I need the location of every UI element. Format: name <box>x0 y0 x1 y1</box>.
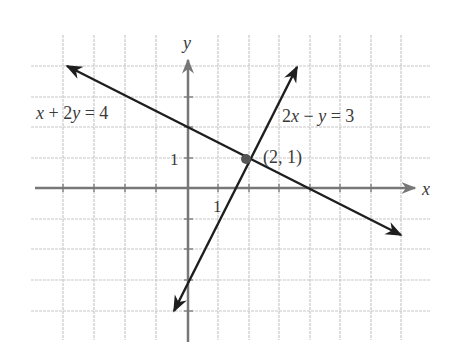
graph-canvas: y x 1 1 x + 2y = 4 2x − y = 3 (2, 1) <box>0 0 456 346</box>
line-x-plus-2y-eq-4 <box>67 66 401 235</box>
intersection-point <box>241 154 251 164</box>
y-tick-label-1: 1 <box>170 150 179 169</box>
x-axis-label: x <box>421 179 430 199</box>
equation-label-line1: x + 2y = 4 <box>35 103 108 123</box>
y-axis-label: y <box>181 33 191 53</box>
equation-label-line2: 2x − y = 3 <box>282 106 354 126</box>
intersection-label: (2, 1) <box>263 147 302 168</box>
x-tick-label-1: 1 <box>213 197 222 216</box>
